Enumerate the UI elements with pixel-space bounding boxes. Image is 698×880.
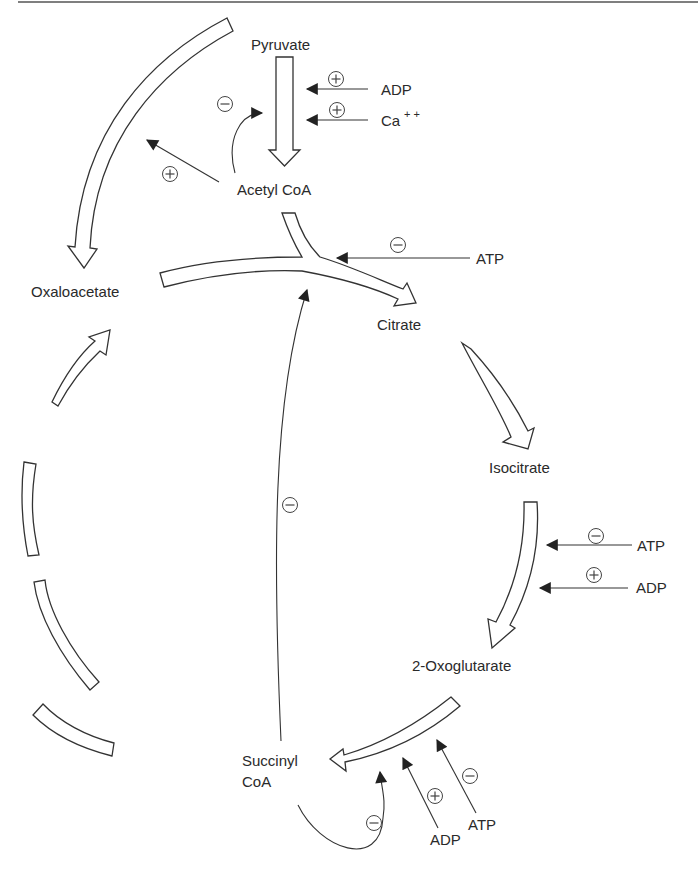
label-isocitrate: Isocitrate [489, 459, 550, 476]
label-succinyl-coa-line1: Succinyl [242, 752, 298, 769]
citrate-to-isocitrate-arrow [462, 343, 534, 449]
label-pdh-ca-superscript: + + [404, 108, 420, 120]
label-ogdh-atp: ATP [468, 816, 496, 833]
label-2-oxoglutarate: 2-Oxoglutarate [412, 657, 511, 674]
succinylcoa-feedback-arrow [298, 772, 384, 849]
minus-sign-icon [218, 97, 233, 112]
plus-sign-icon [428, 789, 443, 804]
label-succinyl-coa-line2: CoA [242, 773, 271, 790]
acetylcoa-feedback-arrow [232, 113, 262, 173]
oxoglutarate-to-succinylcoa-arrow [330, 697, 460, 771]
label-citrate: Citrate [377, 316, 421, 333]
label-oxaloacetate: Oxaloacetate [31, 283, 119, 300]
cycle-segment-3 [22, 462, 39, 556]
plus-sign-icon [329, 72, 344, 87]
label-idh-atp: ATP [637, 537, 665, 554]
minus-sign-icon [283, 498, 298, 513]
citric-acid-cycle-diagram: Pyruvate Acetyl CoA Oxaloacetate Citrate… [0, 0, 698, 880]
label-acetyl-coa: Acetyl CoA [237, 181, 311, 198]
label-pdh-ca: Ca [381, 112, 401, 129]
succinylcoa-to-cs-arrow [276, 290, 307, 741]
label-pdh-adp: ADP [381, 81, 412, 98]
plus-sign-icon [163, 167, 178, 182]
minus-sign-icon [589, 529, 604, 544]
minus-sign-icon [391, 238, 406, 253]
pyruvate-to-oxaloacetate-arrow [68, 18, 233, 268]
acetylcoa-activation-arrow [147, 140, 219, 182]
cycle-segment-1 [33, 704, 114, 756]
label-pyruvate: Pyruvate [251, 36, 310, 53]
isocitrate-to-oxoglutarate-arrow [488, 502, 538, 648]
oxaloacetate-incoming-arrow [52, 330, 110, 406]
minus-sign-icon [463, 769, 478, 784]
pyruvate-to-acetylcoa-arrow [269, 57, 300, 166]
plus-sign-icon [330, 103, 345, 118]
citrate-synthase-arrow [160, 213, 416, 306]
label-cs-atp: ATP [476, 250, 504, 267]
cycle-segment-2 [34, 580, 99, 690]
plus-sign-icon [587, 568, 602, 583]
label-ogdh-adp: ADP [430, 831, 461, 848]
minus-sign-icon [367, 816, 382, 831]
label-idh-adp: ADP [636, 579, 667, 596]
